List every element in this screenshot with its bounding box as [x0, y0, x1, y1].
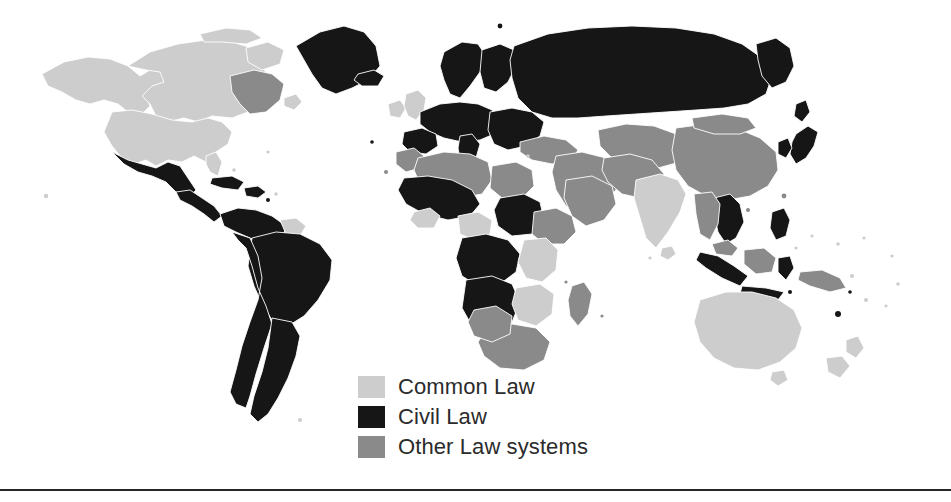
map-island-hawaii-dot — [44, 194, 48, 198]
map-island-guam-dot — [810, 234, 813, 237]
legend-row-other-law: Other Law systems — [358, 432, 658, 462]
map-island-caribbean-dot-1 — [266, 198, 270, 202]
map-island-svalbard-dot — [498, 24, 503, 29]
legend-label-civil-law: Civil Law — [398, 406, 487, 428]
civil-law-swatch — [358, 406, 385, 428]
map-island-cyprus-dot — [526, 154, 530, 158]
legend-label-common-law: Common Law — [398, 376, 535, 398]
map-island-bermuda-dot — [266, 150, 269, 153]
map-island-bahamas-dot — [232, 168, 236, 172]
map-island-tonga-dot — [884, 304, 887, 307]
other-law-swatch — [358, 436, 385, 458]
map-island-comoros-dot — [564, 280, 567, 283]
map-island-kiribati-dot — [890, 254, 893, 257]
map-island-solomon-dot — [850, 274, 854, 278]
map-island-mauritius-dot — [600, 314, 603, 317]
map-island-marshall-dot — [862, 236, 865, 239]
map-island-timor-dot — [788, 290, 792, 294]
legend-row-civil-law: Civil Law — [358, 402, 658, 432]
bottom-horizontal-rule — [0, 489, 951, 491]
map-island-falklands-dot — [298, 418, 302, 422]
map-island-hainan-dot — [746, 208, 750, 212]
map-island-new-caledonia-dot — [835, 311, 841, 317]
map-legend: Common Law Civil Law Other Law systems — [358, 372, 658, 462]
map-island-caribbean-dot-2 — [274, 192, 278, 196]
map-island-taiwan-dot — [782, 194, 787, 199]
map-region-egypt — [490, 162, 534, 198]
map-island-canary-dot — [384, 170, 388, 174]
map-island-fiji-dot — [864, 298, 868, 302]
legend-row-common-law: Common Law — [358, 372, 658, 402]
map-island-azores-dot — [370, 140, 374, 144]
map-island-palau-dot — [794, 246, 797, 249]
common-law-swatch — [358, 376, 385, 398]
map-island-micronesia-dot — [836, 242, 840, 246]
map-island-samoa-dot — [896, 282, 900, 286]
world-legal-systems-figure: Common Law Civil Law Other Law systems — [0, 0, 951, 502]
legend-label-other-law: Other Law systems — [398, 436, 588, 458]
map-island-maldives-dot — [648, 256, 651, 259]
map-island-vanuatu-dot — [848, 290, 852, 294]
